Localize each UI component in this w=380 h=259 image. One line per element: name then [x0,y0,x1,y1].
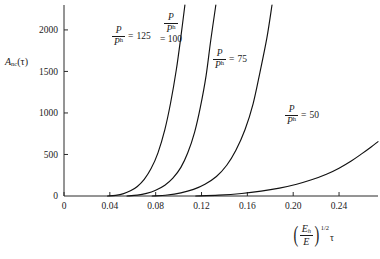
curve-label-100: P Ph = 100 [160,13,182,45]
denominator-superscript-h: h [120,36,123,43]
y-tick-label: 2000 [39,25,58,35]
denominator-superscript-h: h [293,115,296,122]
y-tick-label: 1000 [39,108,58,118]
fraction-Eh-over-E: Eh E [300,223,313,246]
fraction-P-over-Ph: P Ph [285,105,298,126]
ratio-line-100: = 100 [160,35,182,45]
fraction-P-over-Ph: P Ph [213,49,226,70]
x-tick-label: 0.04 [102,201,119,211]
numerator-P: P [164,13,177,23]
curve-label-50: P Ph =50 [285,105,319,126]
numerator-subscript-h: h [308,228,311,235]
fraction-P-over-Ph: P Ph [112,26,125,47]
chart-figure: 00.040.080.120.160.200.24 05001000150020… [0,0,380,259]
curve-label-125: P Ph =125 [112,26,151,47]
ratio-value-75: 75 [234,55,247,65]
x-tick-labels: 00.040.080.120.160.200.24 [62,201,348,211]
y-axis-paren-close: ) [25,56,28,67]
plot-canvas: 00.040.080.120.160.200.24 05001000150020… [0,0,380,259]
x-tick-label: 0.12 [193,201,210,211]
x-tick-label: 0.08 [147,201,164,211]
y-tick-label: 1500 [39,67,58,77]
numerator-P: P [112,26,125,36]
ratio-value-125: 125 [133,32,150,42]
denominator-Ph: Ph [112,36,125,48]
x-axis-paren-close: ) [314,222,319,248]
fraction-P-over-Ph: P Ph [164,13,177,34]
denominator-superscript-h: h [221,59,224,66]
x-tick-label: 0.20 [285,201,302,211]
x-axis-exponent: 1/2 [321,224,329,231]
x-tick-label: 0.24 [331,201,348,211]
x-axis-title: ( Eh E )1/2τ [292,222,333,248]
denominator-superscript-h: h [172,23,175,30]
x-axis-tau: τ [330,233,334,243]
equals-sign: = [160,34,165,44]
equals-sign: = [226,55,234,65]
x-tick-label: 0.16 [239,201,256,211]
denominator-Ph: Ph [285,115,298,127]
equals-sign: = [125,32,133,42]
numerator-P: P [213,49,226,59]
denominator-Ph: Ph [164,23,177,35]
y-tick-labels: 0500100015002000 [39,25,58,201]
denominator-E: E [300,235,313,247]
curve-series-3 [196,142,378,196]
y-axis-title: Anc(τ) [5,56,28,67]
ratio-value-100: 100 [168,34,182,44]
denominator-Ph: Ph [213,59,226,71]
numerator-P: P [285,105,298,115]
equals-sign: = [298,111,306,121]
curve-label-75: P Ph =75 [213,49,247,70]
fraction-inner: Eh E [300,223,313,246]
ratio-value-50: 50 [306,111,319,121]
y-tick-marks [64,30,68,155]
x-axis-paren-open: ( [293,222,298,248]
numerator-Eh: Eh [300,223,313,234]
y-tick-label: 0 [53,191,58,201]
y-tick-label: 500 [44,150,59,160]
x-tick-label: 0 [62,201,67,211]
